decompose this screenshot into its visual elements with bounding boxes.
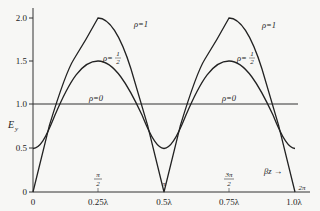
svg-text:1: 1 [116,50,120,58]
x-axis-label: βz → [263,166,282,176]
svg-text:1: 1 [250,50,254,58]
svg-text:2: 2 [250,58,254,66]
label-rho-0-a: ρ=0 [88,93,104,103]
phase-pi-half-num: π [96,171,100,179]
x-tick-1-0: 1.0λ [286,197,302,207]
x-tick-0-25: 0.25λ [88,197,109,207]
phase-3pi-half-den: 2 [227,180,231,188]
label-rho-1-a: ρ=1 [133,19,148,29]
phase-2pi: 2π [298,184,306,192]
y-tick-2-0: 2.0 [16,13,28,23]
x-tick-0: 0 [31,197,36,207]
phase-pi-half-den: 2 [96,180,100,188]
label-rho-half-b: ρ= [236,53,247,63]
phase-3pi-half-num: 3π [224,171,233,179]
series-rho-1 [33,18,295,192]
y-tick-1-5: 1.5 [16,56,28,66]
label-rho-1-b: ρ=1 [261,20,276,30]
label-rho-0-b: ρ=0 [221,93,237,103]
series-rho-half [33,61,295,149]
x-tick-0-75: 0.75λ [219,197,240,207]
y-tick-1-0: 1.0 [16,99,28,109]
y-ticks: 0 0.5 1.0 1.5 2.0 [16,13,33,197]
y-axis-label-sub: y [14,125,19,133]
x-tick-0-5: 0.5λ [156,197,172,207]
y-tick-0-5: 0.5 [16,143,28,153]
y-axis-label: E [7,119,14,130]
label-rho-half-a: ρ= [102,53,113,63]
standing-wave-chart: 0 0.5 1.0 1.5 2.0 E y 0 0.25λ 0.5λ 0.75λ… [0,0,320,211]
svg-text:2: 2 [116,58,120,66]
y-tick-0: 0 [23,187,28,197]
